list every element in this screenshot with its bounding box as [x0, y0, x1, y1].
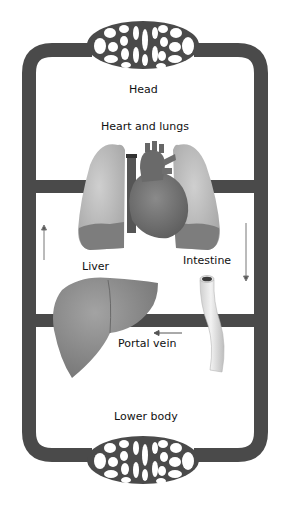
portal-vein-label: Portal vein — [118, 337, 176, 350]
heart-and-lungs-illustration — [78, 141, 220, 250]
heart-and-lungs-label: Heart and lungs — [101, 120, 189, 133]
liver-label: Liver — [82, 260, 109, 273]
arrow-portal-vein — [154, 331, 182, 336]
arrow-heart-to-intestine — [244, 223, 249, 281]
liver-illustration — [53, 278, 158, 379]
lower-body-label: Lower body — [114, 410, 178, 423]
head-capillary-bed — [87, 21, 199, 69]
lower-body-capillary-bed — [87, 436, 199, 484]
arrow-liver-to-heart — [42, 225, 47, 260]
circulation-diagram — [0, 0, 286, 505]
head-label: Head — [129, 83, 158, 96]
intestine-label: Intestine — [183, 254, 231, 267]
vessel-loop — [29, 50, 261, 455]
